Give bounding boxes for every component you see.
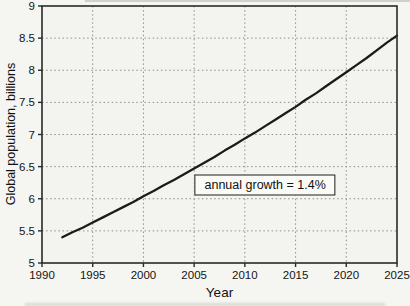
y-tick-label: 7 bbox=[29, 129, 35, 141]
x-tick-label: 2020 bbox=[333, 269, 359, 281]
y-tick-label: 7.5 bbox=[19, 96, 35, 108]
y-tick-label: 8 bbox=[29, 64, 35, 76]
y-tick-label: 5.5 bbox=[19, 225, 35, 237]
y-tick-label: 6.5 bbox=[19, 161, 35, 173]
population-growth-figure: 1990199520002005201020152020202555.566.5… bbox=[0, 0, 410, 306]
x-axis-label: Year bbox=[42, 285, 397, 300]
y-axis-label: Global population, billions bbox=[4, 63, 18, 205]
chart-canvas: 1990199520002005201020152020202555.566.5… bbox=[0, 0, 410, 306]
x-tick-label: 2015 bbox=[283, 269, 309, 281]
y-tick-label: 9 bbox=[29, 0, 35, 12]
y-tick-label: 8.5 bbox=[19, 32, 35, 44]
y-tick-label: 5 bbox=[29, 257, 35, 269]
x-tick-label: 1990 bbox=[29, 269, 55, 281]
scan-artifact-top bbox=[85, 0, 410, 2]
x-tick-label: 2000 bbox=[131, 269, 157, 281]
x-tick-label: 2005 bbox=[181, 269, 207, 281]
annotation-box: annual growth = 1.4% bbox=[195, 174, 336, 195]
x-tick-label: 1995 bbox=[80, 269, 106, 281]
y-tick-label: 6 bbox=[29, 193, 35, 205]
x-tick-label: 2010 bbox=[232, 269, 258, 281]
x-tick-label: 2025 bbox=[384, 269, 410, 281]
